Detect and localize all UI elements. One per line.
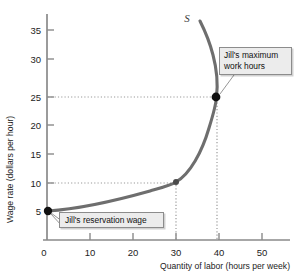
maximum-hours-point — [212, 93, 221, 102]
supply-curve-label: S — [184, 12, 190, 24]
y-tick-label-25: 25 — [30, 92, 41, 103]
y-axis-title: Wage rate (dollars per hour) — [5, 116, 15, 223]
chart-svg: 35 30 25 20 15 10 5 0 10 20 30 40 50 Qua… — [0, 0, 296, 274]
y-axis-ticks — [47, 30, 54, 211]
x-axis-tick-labels: 0 10 20 30 40 50 — [41, 247, 267, 258]
y-tick-label-10: 10 — [30, 178, 41, 189]
labor-supply-chart: 35 30 25 20 15 10 5 0 10 20 30 40 50 Qua… — [0, 0, 296, 274]
reservation-wage-point — [44, 207, 52, 215]
y-axis-tick-labels: 35 30 25 20 15 10 5 — [30, 25, 41, 217]
labor-supply-curve — [48, 21, 217, 211]
callout-jills-maximum-work-hours: Jill's maximum work hours — [219, 47, 292, 75]
callout-jills-reservation-wage: Jill's reservation wage — [59, 212, 164, 228]
x-tick-label-0: 0 — [41, 247, 46, 258]
x-tick-label-30: 30 — [171, 247, 182, 258]
y-tick-label-20: 20 — [30, 120, 41, 131]
y-tick-label-30: 30 — [30, 54, 41, 65]
y-tick-label-35: 35 — [30, 25, 41, 36]
x-tick-label-10: 10 — [85, 247, 96, 258]
y-tick-label-15: 15 — [30, 149, 41, 160]
leader-line-maximum-hours — [220, 75, 234, 94]
x-tick-label-50: 50 — [257, 247, 268, 258]
x-axis-title: Quantity of labor (hours per week) — [160, 261, 290, 271]
midpoint-30-10 — [173, 179, 179, 185]
y-tick-label-5: 5 — [36, 206, 41, 217]
x-tick-label-20: 20 — [128, 247, 139, 258]
x-tick-label-40: 40 — [214, 247, 225, 258]
callout-leader-lines — [51, 75, 234, 226]
